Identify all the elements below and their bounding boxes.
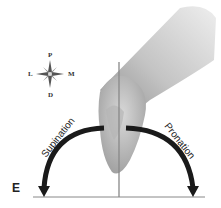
pronation-supination-diagram: Supination Pronation P L M D E: [0, 0, 221, 208]
pronation-arrowhead-icon: [187, 186, 199, 197]
forearm: [99, 6, 217, 173]
compass-rose-icon: [36, 60, 64, 88]
compass-label-medial: M: [68, 70, 75, 78]
supination-arrowhead-icon: [38, 186, 50, 197]
compass-label-distal: D: [48, 91, 53, 99]
figure-letter-label: E: [12, 181, 20, 195]
compass-label-proximal: P: [48, 51, 52, 59]
diagram-canvas: Supination Pronation: [0, 0, 221, 208]
compass-label-lateral: L: [28, 70, 33, 78]
